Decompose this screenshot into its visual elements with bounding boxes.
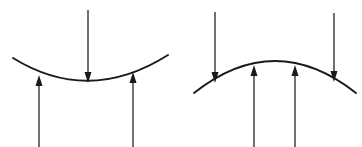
upward-reaction-arrow-inner-left-head <box>251 65 258 76</box>
concave-up-beam-panel <box>13 10 168 147</box>
upward-reaction-arrow-left-head <box>36 75 43 86</box>
concave-down-beam-panel <box>194 12 356 147</box>
concave-down-beam-curve <box>194 61 356 93</box>
downward-load-arrow <box>85 10 92 83</box>
downward-load-arrow-left <box>212 12 219 83</box>
upward-reaction-arrow-right <box>130 72 137 147</box>
upward-reaction-arrow-left <box>36 75 43 147</box>
upward-reaction-arrow-inner-right <box>292 65 299 147</box>
upward-reaction-arrow-inner-right-head <box>292 65 299 76</box>
downward-load-arrow-right <box>331 13 338 82</box>
force-diagram-figure <box>0 0 362 147</box>
figure-canvas <box>0 0 362 147</box>
concave-up-beam-curve <box>13 55 168 81</box>
upward-reaction-arrow-inner-left <box>251 65 258 147</box>
